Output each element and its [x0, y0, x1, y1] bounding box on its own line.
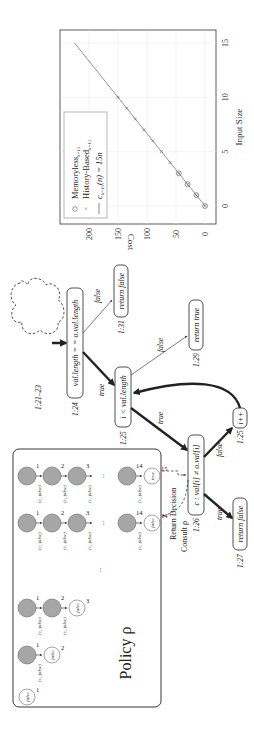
svg-text:true: true [215, 507, 224, 520]
node-1-26: c : val[i] ≠ o.val[i] 1:26 [188, 435, 204, 532]
node-1-31: return false 1:31 [114, 265, 128, 334]
svg-text:1:24: 1:24 [71, 402, 80, 416]
node-1-27: return false 1:27 [233, 498, 247, 568]
policy-gray-node [18, 599, 36, 617]
svg-text:1:25: 1:25 [236, 430, 245, 444]
svg-text:i++: i++ [236, 411, 245, 424]
node-index: 1 [36, 462, 39, 469]
svg-text:1:25: 1:25 [119, 431, 128, 445]
x-tick-label: 15 [221, 39, 230, 47]
policy-gray-node [18, 467, 36, 485]
svg-text:true: true [97, 383, 106, 396]
node-1-29: return true 1:29 [189, 300, 203, 367]
edge-loop-back [134, 384, 240, 408]
svg-text:1:31: 1:31 [117, 320, 126, 334]
figure-canvas: 051015050100150200 × Memorylessk=15 Hist… [0, 0, 254, 734]
svg-text:1:27: 1:27 [236, 554, 245, 568]
control-flow-diagram: 1:21–23 val.length = = o.val.length 1:24… [11, 265, 247, 707]
policy-gray-node [43, 467, 61, 485]
node-1-25-incr: i++ 1:25 [233, 408, 247, 444]
policy-end-value: true [150, 471, 155, 480]
legend-history: History-Based [81, 149, 91, 199]
legend-history-sub: k=15 [87, 139, 92, 150]
node-index: 1 [36, 686, 39, 693]
node-index: 14 [136, 462, 143, 469]
policy-gray-node [18, 514, 36, 532]
policy-gray-node [43, 599, 61, 617]
policy-gray-node [118, 514, 136, 532]
node-index: 3 [86, 509, 89, 516]
policy-gray-node [18, 646, 36, 664]
x-tick-label: 0 [221, 204, 230, 208]
legend-cost-sub: k=15 [100, 184, 105, 195]
policy-gray-node [68, 514, 86, 532]
svg-text:false: false [156, 337, 165, 352]
node-index: 2 [61, 462, 64, 469]
cloud-label: 1:21–23 [34, 385, 43, 410]
node-1-24: val.length = = o.val.length 1:24 [67, 288, 83, 416]
x-axis-label: Input Size [234, 109, 244, 146]
policy-end-value: false [25, 692, 30, 702]
svg-text:val.length = = o.val.length: val.length = = o.val.length [71, 300, 80, 386]
chain-ellipsis: ... [98, 473, 105, 478]
policy-end-value: false [50, 650, 55, 660]
consult-label: Consult ρ [180, 521, 189, 552]
node-index: 14 [136, 509, 143, 516]
svg-text:return true: return true [192, 307, 201, 342]
node-index: 1 [36, 509, 39, 516]
svg-text:return false: return false [236, 505, 245, 542]
node-index: 2 [61, 509, 64, 516]
cost-chart: 051015050100150200 × Memorylessk=15 Hist… [60, 30, 244, 251]
y-tick-label: 100 [143, 228, 152, 240]
y-tick-label: 50 [172, 230, 181, 238]
x-tick-label: 10 [221, 93, 230, 101]
edge-1-24-to-1-25 [83, 352, 114, 385]
policy-end-value: false [150, 518, 155, 528]
chain-ellipsis: ... [98, 520, 105, 525]
policy-gray-node [68, 467, 86, 485]
legend-x-marker-icon: × [84, 206, 87, 212]
svg-text:c : val[i] ≠ o.val[i]: c : val[i] ≠ o.val[i] [192, 444, 201, 505]
y-tick-label: 200 [85, 228, 94, 240]
policy-box: Policy ρ false11(c, false)false21(c, fal… [13, 449, 168, 707]
svg-text:false: false [215, 442, 224, 457]
node-index: 14 [161, 512, 168, 519]
policy-gray-node [43, 514, 61, 532]
svg-text:return false: return false [117, 272, 126, 309]
x-tick-label: 5 [221, 150, 230, 154]
node-index: 15 [161, 465, 168, 472]
node-index: 3 [86, 462, 89, 469]
legend-cost-post: (n) = 15n [94, 152, 104, 185]
legend-memoryless: Memoryless [70, 157, 80, 199]
y-tick-label: 0 [201, 232, 210, 236]
svg-text:1:29: 1:29 [192, 353, 201, 367]
policy-ellipsis-vertical: ... [95, 567, 102, 572]
y-tick-label: 150 [114, 228, 123, 240]
node-index: 2 [61, 644, 64, 651]
chart-legend: × Memorylessk=15 History-Basedk=15 ck=15… [64, 112, 107, 218]
return-decision-label: Return Decision [169, 488, 178, 540]
policy-title: Policy ρ [117, 627, 135, 680]
node-index: 2 [61, 594, 64, 601]
policy-gray-node [118, 467, 136, 485]
svg-text:i < val.length: i < val.length [119, 375, 128, 418]
policy-end-value: false [75, 603, 80, 613]
node-index: 1 [36, 641, 39, 648]
svg-text:false: false [93, 288, 102, 303]
node-1-25-cond: i < val.length 1:25 [115, 367, 131, 445]
svg-text:true: true [156, 411, 165, 424]
edge-1-24-to-1-31 [83, 300, 112, 333]
node-index: 1 [36, 594, 39, 601]
node-index: 3 [86, 597, 89, 604]
svg-text:1:26: 1:26 [192, 518, 201, 532]
cloud-shape-icon [11, 278, 64, 333]
y-axis-label: Cost [126, 234, 136, 251]
